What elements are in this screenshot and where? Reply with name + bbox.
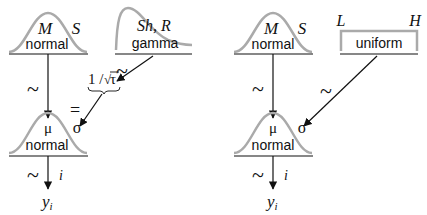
left-prior-tau-gamma: Sh, R gamma [115, 8, 192, 54]
tilde-sigma: ~ [320, 78, 332, 103]
param-mu: μ [44, 120, 52, 136]
param-s: S [72, 19, 81, 38]
data-var: y [265, 192, 275, 211]
dist-label-gamma: gamma [132, 35, 179, 51]
index-i: i [284, 168, 288, 183]
left-likelihood-normal: μ σ normal [9, 113, 88, 156]
right-diagram: M S normal L H uniform ~ ~ μ σ normal ~ [234, 12, 422, 212]
tilde-tau: ~ [116, 58, 128, 83]
underbrace [88, 87, 120, 94]
arrow-to-sigma [80, 94, 102, 126]
dist-label-normal: normal [26, 137, 69, 153]
param-mu: μ [269, 120, 277, 136]
dist-label-normal: normal [252, 36, 295, 52]
right-likelihood-normal: μ σ normal [234, 113, 313, 156]
tilde-mu: ~ [252, 76, 264, 101]
transform-expression: 1 / √ τ [88, 71, 120, 94]
data-y: yi [265, 192, 278, 212]
tilde-data: ~ [252, 162, 264, 187]
arrow-to-sigma [304, 56, 377, 126]
data-subscript: i [50, 200, 53, 212]
transform-var: τ [110, 71, 116, 87]
param-s: S [298, 19, 307, 38]
data-y: yi [40, 192, 53, 212]
diagram-canvas: M S normal Sh, R gamma ~ ~ 1 / √ τ = [0, 0, 427, 215]
right-prior-sigma-uniform: L H uniform [336, 12, 423, 54]
data-var: y [40, 192, 50, 211]
param-sigma: σ [73, 119, 82, 136]
param-l: L [336, 12, 346, 29]
index-i: i [59, 168, 63, 183]
dist-label-normal: normal [26, 36, 69, 52]
tilde-mu: ~ [27, 76, 39, 101]
data-subscript: i [275, 200, 278, 212]
tilde-data: ~ [27, 162, 39, 187]
param-sigma: σ [298, 119, 307, 136]
param-h: H [408, 12, 422, 29]
left-prior-mu-normal: M S normal [9, 13, 88, 54]
left-diagram: M S normal Sh, R gamma ~ ~ 1 / √ τ = [9, 8, 192, 212]
right-prior-mu-normal: M S normal [234, 13, 313, 54]
equals-sigma: = [70, 100, 80, 120]
param-sh-r: Sh, R [137, 17, 171, 34]
dist-label-normal: normal [252, 137, 295, 153]
dist-label-uniform: uniform [356, 35, 403, 51]
